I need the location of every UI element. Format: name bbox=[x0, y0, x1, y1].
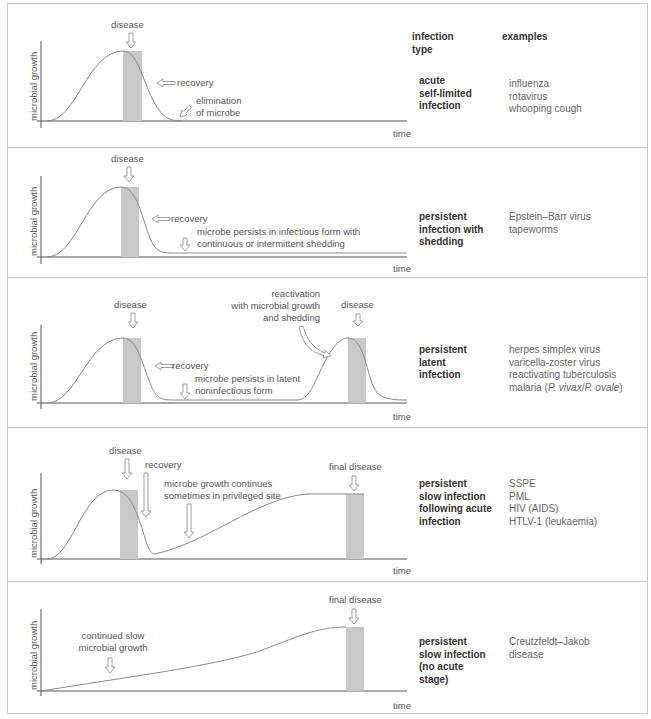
example-item: rotavirus bbox=[509, 91, 582, 104]
slow-growth-label: continued slow bbox=[82, 630, 145, 641]
final-disease-label: final disease bbox=[329, 461, 382, 472]
final-disease-bar bbox=[346, 627, 364, 691]
example-item: malaria (P. vivax/P. ovale) bbox=[509, 382, 623, 395]
example-item: whooping cough bbox=[509, 103, 582, 116]
recovery-label: recovery bbox=[145, 459, 182, 470]
elimination-label-2: of microbe bbox=[196, 107, 240, 118]
x-axis-label: time bbox=[393, 263, 411, 274]
disease-bar-2 bbox=[348, 338, 366, 403]
graph-slow-no-acute: microbial growth continued slow microbia… bbox=[7, 582, 407, 715]
disease-label-2: disease bbox=[341, 299, 374, 310]
down-arrow-icon bbox=[124, 167, 134, 182]
examples-list: Epstein–Barr virus tapeworms bbox=[509, 211, 591, 236]
final-disease-label: final disease bbox=[329, 594, 382, 605]
example-item: Creutzfeldt–Jakob bbox=[509, 636, 590, 649]
diagonal-arrow-icon bbox=[180, 106, 192, 118]
elimination-label: elimination bbox=[196, 95, 241, 106]
down-arrow-icon bbox=[353, 314, 363, 326]
disease-bar bbox=[121, 187, 139, 257]
graph-shedding: microbial growth disease recovery microb… bbox=[7, 148, 407, 278]
recovery-label: recovery bbox=[171, 213, 208, 224]
disease-label: disease bbox=[111, 19, 144, 30]
left-arrow-icon bbox=[157, 79, 175, 87]
graph-slow-acute: microbial growth disease recovery microb… bbox=[7, 428, 407, 582]
disease-label: disease bbox=[114, 299, 147, 310]
example-item: PML bbox=[509, 491, 597, 504]
example-item: influenza bbox=[509, 78, 582, 91]
examples-list: herpes simplex virus varicella-zoster vi… bbox=[509, 344, 623, 394]
continues-label: microbe growth continues bbox=[164, 478, 272, 489]
x-axis-label: time bbox=[393, 128, 411, 139]
example-item: HTLV-1 (leukaemia) bbox=[509, 516, 597, 529]
latent-label: microbe persists in latent bbox=[195, 373, 300, 384]
down-arrow-icon bbox=[349, 609, 359, 624]
example-item: herpes simplex virus bbox=[509, 344, 623, 357]
slow-growth-label-2: microbial growth bbox=[78, 642, 147, 653]
disease-bar bbox=[120, 490, 138, 559]
example-item: HIV (AIDS) bbox=[509, 503, 597, 516]
down-arrow-icon bbox=[128, 313, 138, 328]
y-axis-label: microbial growth bbox=[28, 332, 39, 401]
example-item: disease bbox=[509, 649, 590, 662]
disease-label: disease bbox=[109, 445, 142, 456]
persist-label: microbe persists in infectious form with bbox=[197, 226, 360, 237]
infection-type: persistent infection with shedding bbox=[419, 211, 483, 249]
down-arrow-icon bbox=[141, 473, 151, 517]
graph-acute: microbial growth disease recovery elimin… bbox=[7, 3, 407, 147]
recovery-label: recovery bbox=[172, 360, 209, 371]
latent-label-2: noninfectious form bbox=[195, 385, 273, 396]
down-arrow-icon bbox=[105, 658, 115, 673]
infection-type: acute self-limited infection bbox=[419, 75, 472, 113]
x-axis-label: time bbox=[393, 565, 411, 576]
curved-arrow-icon bbox=[299, 326, 331, 358]
down-arrow-icon bbox=[180, 238, 190, 251]
panel-persistent-latent: microbial growth disease recovery microb… bbox=[7, 277, 648, 427]
disease-bar bbox=[123, 51, 142, 121]
panel-slow-following-acute: microbial growth disease recovery microb… bbox=[7, 427, 648, 581]
reactivation-label-2: with microbial growth bbox=[230, 300, 320, 311]
y-axis-label: microbial growth bbox=[28, 187, 39, 256]
y-axis-label: microbial growth bbox=[28, 52, 39, 121]
left-arrow-icon bbox=[155, 362, 173, 370]
example-item: SSPE bbox=[509, 478, 597, 491]
infection-type: persistent latent infection bbox=[419, 344, 467, 382]
infection-type: persistent slow infection following acut… bbox=[419, 478, 492, 528]
example-item: Epstein–Barr virus bbox=[509, 211, 591, 224]
y-axis-label: microbial growth bbox=[28, 621, 39, 690]
panel-slow-no-acute: microbial growth continued slow microbia… bbox=[7, 581, 648, 714]
examples-list: influenza rotavirus whooping cough bbox=[509, 78, 582, 116]
final-disease-bar bbox=[346, 494, 364, 559]
persist-label-2: continuous or intermittent shedding bbox=[197, 238, 345, 249]
down-arrow-icon bbox=[180, 384, 190, 399]
panel-acute: microbial growth disease recovery elimin… bbox=[7, 3, 648, 147]
example-item: tapeworms bbox=[509, 224, 591, 237]
recovery-label: recovery bbox=[177, 77, 214, 88]
down-arrow-icon bbox=[122, 459, 132, 479]
infection-type: persistent slow infection (no acute stag… bbox=[419, 636, 486, 686]
down-arrow-icon bbox=[349, 476, 359, 491]
reactivation-label-3: and shedding bbox=[263, 312, 320, 323]
examples-list: Creutzfeldt–Jakob disease bbox=[509, 636, 590, 661]
down-arrow-icon bbox=[184, 504, 194, 538]
graph-latent: microbial growth disease recovery microb… bbox=[7, 278, 407, 428]
y-axis-label: microbial growth bbox=[28, 489, 39, 558]
x-axis-label: time bbox=[393, 411, 411, 422]
reactivation-label: reactivation bbox=[271, 288, 320, 299]
disease-bar bbox=[123, 338, 141, 403]
panel-persistent-shedding: microbial growth disease recovery microb… bbox=[7, 147, 648, 277]
x-axis-label: time bbox=[393, 700, 411, 711]
example-item: varicella-zoster virus bbox=[509, 357, 623, 370]
left-arrow-icon bbox=[152, 215, 170, 223]
examples-list: SSPE PML HIV (AIDS) HTLV-1 (leukaemia) bbox=[509, 478, 597, 528]
continues-label-2: sometimes in privileged site bbox=[164, 490, 281, 501]
down-arrow-icon bbox=[126, 33, 136, 48]
example-item: reactivating tuberculosis bbox=[509, 369, 623, 382]
disease-label: disease bbox=[111, 153, 144, 164]
